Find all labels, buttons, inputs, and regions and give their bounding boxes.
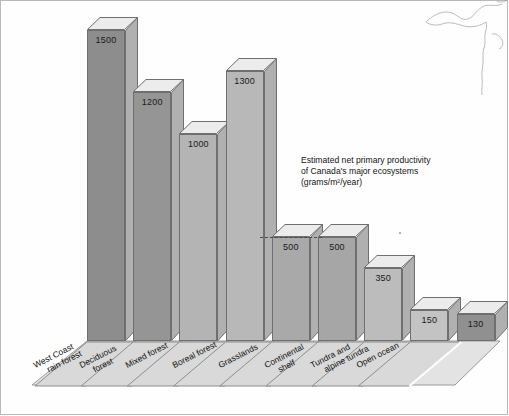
bar-value-label-boreal-forest: 1300: [226, 76, 264, 86]
reference-line-500: [260, 237, 322, 238]
bar-value-label-tundra-and-alpine-tundra: 350: [364, 273, 402, 283]
chart-title-line-2: of Canada's major ecosystems: [301, 166, 451, 177]
bar-front-face-continental-shelf: [318, 237, 356, 341]
chart-canvas: 1500120010001300500500350150130 Estimate…: [0, 0, 509, 416]
bar-front-face-boreal-forest: [226, 71, 264, 341]
chart-title: Estimated net primary productivity of Ca…: [301, 155, 451, 188]
bar-front-face-west-coast-rain-forest: [87, 30, 125, 341]
speck-dot: [399, 232, 401, 234]
bar-front-face-mixed-forest: [179, 134, 217, 342]
map-outline-decoration: [414, 0, 509, 95]
bar-side-face-open-ocean-130: [495, 301, 509, 342]
chart-title-line-1: Estimated net primary productivity: [301, 155, 451, 166]
bar-value-label-continental-shelf: 500: [318, 242, 356, 252]
bar-value-label-west-coast-rain-forest: 1500: [87, 35, 125, 45]
bar-value-label-open-ocean-130: 130: [457, 319, 495, 329]
bar-front-face-grasslands: [272, 237, 310, 341]
bar-value-label-deciduous-forest: 1200: [133, 97, 171, 107]
bar-front-face-deciduous-forest: [133, 92, 171, 341]
bar-value-label-mixed-forest: 1000: [179, 139, 217, 149]
bar-value-label-open-ocean-150: 150: [410, 315, 448, 325]
chart-title-line-3: (grams/m²/year): [301, 177, 451, 188]
bar-value-label-grasslands: 500: [272, 242, 310, 252]
